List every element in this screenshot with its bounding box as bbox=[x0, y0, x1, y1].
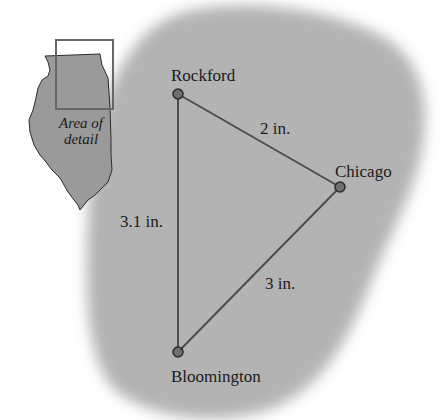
map-diagram: Area of detail Rockford Chicago Blooming… bbox=[0, 0, 444, 420]
city-label-bloomington: Bloomington bbox=[171, 368, 261, 385]
bloomington-dot-icon bbox=[173, 347, 183, 357]
distance-label-chicago-bloomington: 3 in. bbox=[265, 275, 295, 292]
distance-label-rockford-chicago: 2 in. bbox=[260, 120, 290, 137]
city-label-chicago: Chicago bbox=[335, 163, 392, 180]
area-of-detail-label: Area of detail bbox=[46, 116, 116, 148]
map-svg bbox=[0, 0, 444, 420]
chicago-dot-icon bbox=[335, 182, 345, 192]
distance-label-rockford-bloomington: 3.1 in. bbox=[120, 213, 163, 230]
area-of-detail-line1: Area of bbox=[46, 116, 116, 132]
rockford-dot-icon bbox=[173, 89, 183, 99]
area-of-detail-line2: detail bbox=[46, 132, 116, 148]
city-label-rockford: Rockford bbox=[171, 67, 235, 84]
